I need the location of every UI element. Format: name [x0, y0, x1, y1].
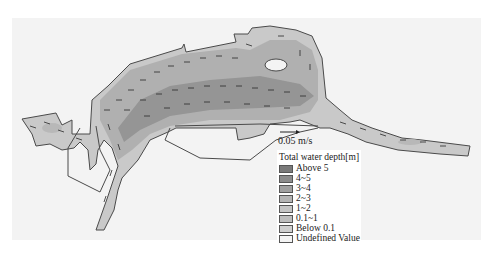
legend-item: 4~5 — [279, 174, 311, 183]
legend-item: Above 5 — [279, 164, 328, 173]
scale-arrow-label: 0.05 m/s — [278, 135, 312, 146]
legend: Total water depth[m] Above 5 4~5 3~4 2~3… — [277, 150, 361, 253]
island — [265, 59, 287, 71]
legend-swatch — [279, 235, 293, 243]
legend-item: 1~2 — [279, 204, 311, 213]
legend-item: 2~3 — [279, 194, 311, 203]
legend-swatch — [279, 195, 293, 203]
legend-title: Total water depth[m] — [279, 152, 359, 162]
flow-field-map — [0, 0, 494, 253]
legend-swatch — [279, 165, 293, 173]
legend-swatch — [279, 205, 293, 213]
west-basin-shade — [42, 123, 62, 133]
legend-item: Undefined Value — [279, 234, 360, 243]
legend-swatch — [279, 185, 293, 193]
legend-swatch — [279, 225, 293, 233]
legend-item: Below 0.1 — [279, 224, 335, 233]
legend-item: 0.1~1 — [279, 214, 318, 223]
legend-swatch — [279, 175, 293, 183]
legend-item: 3~4 — [279, 184, 311, 193]
scale-arrow-head — [296, 130, 300, 134]
legend-swatch — [279, 215, 293, 223]
